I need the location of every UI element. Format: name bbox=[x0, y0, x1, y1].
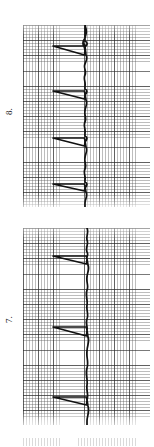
ecg-strip-panel-8 bbox=[23, 25, 150, 207]
ecg-trace-7 bbox=[23, 228, 150, 425]
strip-label-7: 7. bbox=[5, 312, 14, 328]
ecg-trace-8 bbox=[23, 25, 150, 207]
ecg-sheet: 8. 7. bbox=[0, 0, 154, 447]
sheet-bottom-edge bbox=[23, 438, 150, 446]
strip-label-8: 8. bbox=[5, 104, 14, 120]
ecg-strip-panel-7 bbox=[23, 228, 150, 425]
